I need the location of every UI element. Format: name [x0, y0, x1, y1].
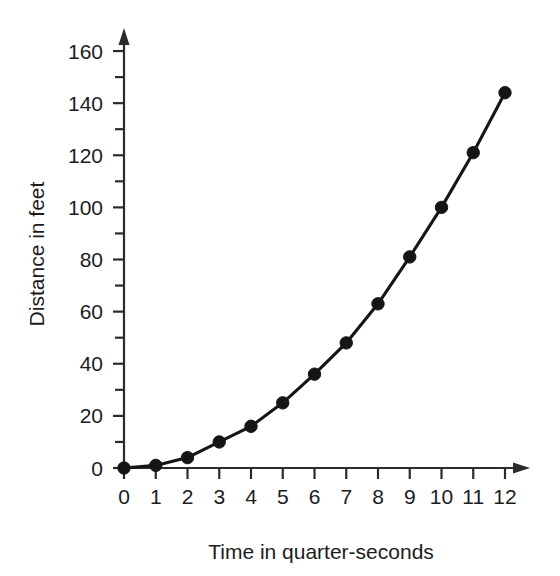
- data-point-marker: [277, 397, 289, 409]
- data-point-marker: [308, 368, 320, 380]
- x-tick-label: 9: [404, 485, 416, 508]
- x-tick-label: 12: [493, 485, 516, 508]
- data-point-marker: [435, 201, 447, 213]
- y-tick-label: 140: [68, 92, 103, 115]
- x-tick-label: 11: [462, 485, 484, 508]
- y-tick-label: 160: [68, 40, 103, 63]
- distance-time-line-chart: 020406080100120140160 0123456789101112 T…: [0, 0, 560, 576]
- x-tick-label: 5: [277, 485, 289, 508]
- y-tick-label: 0: [91, 457, 103, 480]
- data-point-marker: [150, 459, 162, 471]
- x-tick-label: 3: [213, 485, 225, 508]
- chart-container: 020406080100120140160 0123456789101112 T…: [0, 0, 560, 576]
- data-point-marker: [181, 451, 193, 463]
- x-tick-label: 0: [118, 485, 130, 508]
- data-point-marker: [340, 337, 352, 349]
- data-point-marker: [499, 87, 511, 99]
- data-point-marker: [245, 420, 257, 432]
- y-tick-label: 40: [80, 352, 103, 375]
- data-point-marker: [404, 251, 416, 263]
- y-tick-label: 100: [68, 196, 103, 219]
- x-tick-label: 6: [309, 485, 321, 508]
- x-tick-label: 4: [245, 485, 257, 508]
- y-tick-label: 120: [68, 144, 103, 167]
- data-point-marker: [118, 462, 130, 474]
- x-tick-label: 8: [372, 485, 384, 508]
- y-axis-title: Distance in feet: [25, 181, 48, 326]
- y-tick-label: 80: [80, 248, 103, 271]
- y-tick-label: 60: [80, 300, 103, 323]
- y-tick-label: 20: [80, 404, 103, 427]
- x-tick-label: 1: [150, 485, 162, 508]
- data-point-marker: [372, 298, 384, 310]
- x-axis-title: Time in quarter-seconds: [208, 540, 434, 563]
- data-point-marker: [213, 436, 225, 448]
- data-point-marker: [467, 146, 479, 158]
- x-tick-label: 2: [182, 485, 194, 508]
- x-tick-label: 7: [340, 485, 352, 508]
- x-tick-label: 10: [430, 485, 453, 508]
